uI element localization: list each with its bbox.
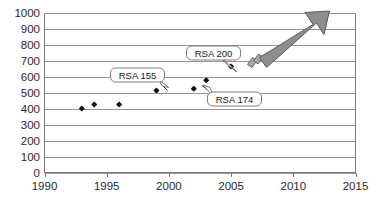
x-axis-tick-label: 2000 (156, 180, 182, 192)
x-axis-tick-label: 2005 (218, 180, 244, 192)
callout-rsa-155-label: RSA 155 (119, 70, 157, 81)
y-axis-tick-label: 100 (21, 151, 40, 163)
callout-rsa-174: RSA 174 (202, 85, 262, 106)
trend-arrow-icon (248, 11, 330, 68)
y-axis-tick-label: 0 (34, 167, 40, 179)
scatter-chart: 01002003004005006007008009001000 1990199… (0, 0, 379, 213)
data-point-core (192, 87, 196, 91)
data-point-core (92, 102, 96, 106)
callout-rsa-155: RSA 155 (111, 68, 169, 91)
x-axis-tick-label: 2015 (343, 180, 369, 192)
data-point-core (204, 78, 208, 82)
y-axis-tick-label: 300 (21, 119, 40, 131)
y-axis-tick-label: 600 (21, 71, 40, 83)
axes (45, 13, 356, 173)
y-axis-tick-label: 800 (21, 39, 40, 51)
y-axis-tick-label: 700 (21, 55, 40, 67)
chart-container: 01002003004005006007008009001000 1990199… (0, 0, 379, 213)
x-axis-tick-label: 1995 (94, 180, 120, 192)
callout-annotations: RSA 155 RSA 174 RSA 200 (111, 46, 262, 106)
y-axis-tick-label: 500 (21, 87, 40, 99)
callout-rsa-200: RSA 200 (187, 46, 241, 72)
y-axis-tick-label: 1000 (14, 7, 40, 19)
callout-rsa-174-label: RSA 174 (216, 94, 254, 105)
x-axis-tick-label: 1990 (32, 180, 58, 192)
x-axis-tick-labels: 199019952000200520102015 (32, 180, 369, 192)
y-axis-tick-label: 200 (21, 135, 40, 147)
y-axis-tick-label: 900 (21, 23, 40, 35)
y-axis-tick-labels: 01002003004005006007008009001000 (14, 7, 40, 179)
data-point-core (80, 106, 84, 110)
data-point-core (117, 102, 121, 106)
callout-rsa-200-label: RSA 200 (195, 48, 233, 59)
x-axis-tick-label: 2010 (281, 180, 307, 192)
data-point-core (154, 88, 158, 92)
y-axis-tick-label: 400 (21, 103, 40, 115)
gridlines (45, 14, 356, 174)
